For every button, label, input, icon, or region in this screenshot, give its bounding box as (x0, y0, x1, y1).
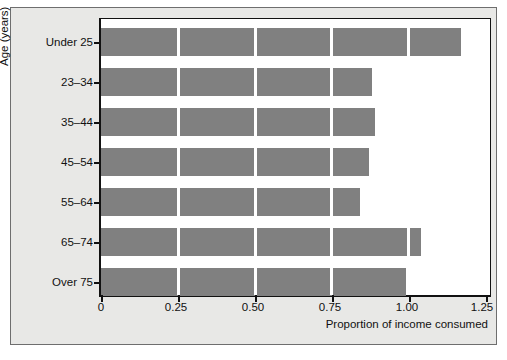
y-axis-tick-label: 45–54 (61, 157, 93, 169)
bar (101, 188, 360, 216)
gridline (177, 19, 180, 295)
bar (101, 108, 375, 136)
y-axis-tick-label: Over 75 (52, 277, 93, 289)
y-axis-tick-label: 35–44 (61, 117, 93, 129)
x-axis-tick-label: 0.75 (319, 302, 341, 314)
bar-row (101, 148, 493, 176)
x-axis-title: Proportion of income consumed (326, 318, 488, 330)
bar (101, 228, 421, 256)
x-axis-tick-label: 0.50 (242, 302, 264, 314)
x-axis-tick-label: 1.00 (396, 302, 418, 314)
y-axis-tick (94, 42, 101, 44)
y-axis-tick (94, 282, 101, 284)
y-axis-tick-label: Under 25 (46, 37, 93, 49)
bar-series (101, 19, 490, 295)
gridline (407, 19, 410, 295)
gridline (254, 19, 257, 295)
y-axis-tick (94, 242, 101, 244)
gridline (330, 19, 333, 295)
x-axis-tick-label: 0 (98, 302, 104, 314)
y-axis-tick (94, 202, 101, 204)
plot-area (99, 18, 491, 297)
bar-row (101, 188, 493, 216)
y-axis-tick-label: 23–34 (61, 77, 93, 89)
y-axis-tick (94, 122, 101, 124)
y-axis-tick-label: 65–74 (61, 237, 93, 249)
bar-row (101, 108, 493, 136)
y-axis-title: Age (years) (0, 7, 10, 66)
chart-figure: Age (years) Under 25 23–34 35–44 45–54 5… (10, 7, 497, 345)
bar-row (101, 28, 493, 56)
bar-row (101, 268, 493, 296)
bar-row (101, 68, 493, 96)
x-axis-tick-labels: 0 0.25 0.50 0.75 1.00 1.25 (99, 302, 491, 318)
bar (101, 148, 369, 176)
bar-row (101, 228, 493, 256)
x-axis-tick-label: 0.25 (165, 302, 187, 314)
y-axis-tick-label: 55–64 (61, 197, 93, 209)
x-axis-tick-label: 1.25 (471, 302, 493, 314)
y-axis-tick (94, 162, 101, 164)
y-axis-tick (94, 82, 101, 84)
y-axis-tick-labels: Under 25 23–34 35–44 45–54 55–64 65–74 O… (11, 18, 93, 297)
